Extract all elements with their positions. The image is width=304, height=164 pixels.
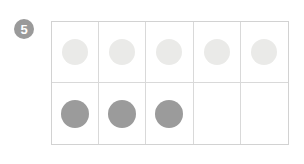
- ten-frame-grid: [51, 21, 289, 145]
- frame-cell-bottom-row-2[interactable]: [99, 83, 146, 144]
- frame-cell-top-row-5[interactable]: [241, 22, 288, 83]
- counting-exercise: 5: [0, 0, 304, 164]
- faded-counter-dot: [204, 39, 230, 65]
- frame-cell-top-row-4[interactable]: [194, 22, 241, 83]
- frame-cell-top-row-2[interactable]: [99, 22, 146, 83]
- problem-number-badge: 5: [14, 19, 34, 39]
- problem-number-label: 5: [20, 23, 27, 36]
- frame-cell-top-row-1[interactable]: [52, 22, 99, 83]
- frame-cell-bottom-row-3[interactable]: [146, 83, 193, 144]
- filled-counter-dot: [61, 100, 89, 128]
- filled-counter-dot: [108, 100, 136, 128]
- frame-cell-top-row-3[interactable]: [146, 22, 193, 83]
- faded-counter-dot: [109, 39, 135, 65]
- frame-cell-bottom-row-1[interactable]: [52, 83, 99, 144]
- faded-counter-dot: [156, 39, 182, 65]
- faded-counter-dot: [62, 39, 88, 65]
- faded-counter-dot: [251, 39, 277, 65]
- frame-cell-bottom-row-5[interactable]: [241, 83, 288, 144]
- filled-counter-dot: [155, 100, 183, 128]
- frame-cell-bottom-row-4[interactable]: [194, 83, 241, 144]
